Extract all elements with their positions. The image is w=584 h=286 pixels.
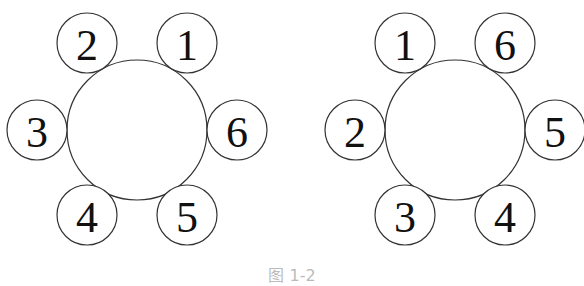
- left-seat: 1: [157, 13, 217, 73]
- left-table-group: 2 1 3 6 4 5: [7, 13, 267, 245]
- left-seat: 2: [57, 13, 117, 73]
- left-seat: 3: [7, 100, 67, 160]
- seat-label: 2: [76, 21, 98, 70]
- seat-label: 1: [176, 21, 198, 70]
- left-seat: 5: [157, 185, 217, 245]
- right-seat: 4: [475, 185, 535, 245]
- seat-label: 2: [344, 108, 366, 157]
- right-seat: 3: [375, 185, 435, 245]
- left-table-circle: [67, 60, 207, 200]
- left-seat: 6: [207, 100, 267, 160]
- right-seat: 1: [375, 13, 435, 73]
- seat-label: 5: [544, 108, 566, 157]
- figure-caption: 图 1-2: [0, 262, 584, 286]
- right-table-circle: [385, 60, 525, 200]
- seat-label: 6: [494, 21, 516, 70]
- seat-label: 5: [176, 193, 198, 242]
- right-seat: 5: [525, 100, 584, 160]
- seat-label: 4: [494, 193, 516, 242]
- right-table-group: 1 6 2 5 3 4: [325, 13, 584, 245]
- seat-label: 6: [226, 108, 248, 157]
- seat-label: 1: [394, 21, 416, 70]
- seat-label: 3: [394, 193, 416, 242]
- seat-label: 3: [26, 108, 48, 157]
- right-seat: 6: [475, 13, 535, 73]
- right-seat: 2: [325, 100, 385, 160]
- left-seat: 4: [57, 185, 117, 245]
- seat-label: 4: [76, 193, 98, 242]
